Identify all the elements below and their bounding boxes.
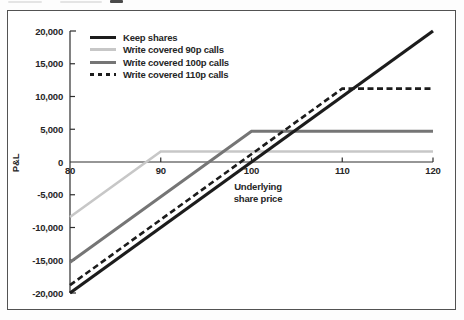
legend-item-keep-shares: Keep shares <box>90 31 229 44</box>
figure-frame <box>7 10 456 310</box>
y-tick-label: 10,000 <box>17 91 63 102</box>
cropped-text-artifact <box>60 1 102 3</box>
legend-swatch-write-90p-icon <box>90 48 116 51</box>
y-tick-label: 20,000 <box>17 26 63 37</box>
legend-swatch-keep-shares-icon <box>90 36 116 39</box>
y-tick-label: 15,000 <box>17 58 63 69</box>
cropped-text-artifact <box>8 1 42 3</box>
x-tick-label: 110 <box>322 165 362 176</box>
legend-item-write-100p-calls: Write covered 100p calls <box>90 56 229 69</box>
y-tick-label: 5,000 <box>17 124 63 135</box>
legend-label: Write covered 100p calls <box>123 57 229 68</box>
legend-label: Write covered 110p calls <box>123 69 228 80</box>
legend-label: Keep shares <box>123 32 177 43</box>
y-tick-label: -20,000 <box>17 288 63 299</box>
cropped-text-artifact <box>110 0 123 3</box>
x-tick-label: 100 <box>232 165 272 176</box>
legend-swatch-write-110p-icon <box>90 73 116 76</box>
x-axis-title: Underlying share price <box>226 181 290 204</box>
y-tick-label: -10,000 <box>17 222 63 233</box>
legend-swatch-write-100p-icon <box>90 61 116 64</box>
y-axis-title: P&L <box>10 154 21 173</box>
x-tick-label: 90 <box>141 165 181 176</box>
y-tick-label: -15,000 <box>17 255 63 266</box>
legend-item-write-90p-calls: Write covered 90p calls <box>90 44 229 57</box>
x-tick-label: 120 <box>413 165 453 176</box>
legend: Keep shares Write covered 90p calls Writ… <box>90 31 229 81</box>
legend-label: Write covered 90p calls <box>123 44 224 55</box>
y-tick-label: -5,000 <box>17 189 63 200</box>
x-tick-label: 80 <box>50 165 90 176</box>
legend-item-write-110p-calls: Write covered 110p calls <box>90 69 229 82</box>
